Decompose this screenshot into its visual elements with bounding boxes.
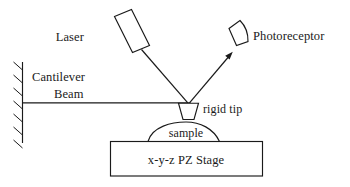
sample-label: sample	[169, 126, 204, 140]
photoreceptor-body	[229, 21, 248, 46]
cantilever-label-line1: Cantilever	[32, 70, 86, 84]
laser-label: Laser	[56, 30, 85, 44]
rigid-tip-outline	[179, 103, 199, 119]
reflected-laser-beam	[190, 52, 233, 103]
wall-hatch-mark	[14, 140, 23, 148]
wall-hatch-mark	[14, 88, 23, 96]
wall-hatch-mark	[14, 62, 23, 70]
cantilever-label-line2: Beam	[54, 87, 84, 101]
photoreceptor-outline	[229, 21, 248, 46]
incident-laser-beam	[142, 50, 188, 103]
wall-hatch-mark	[14, 127, 23, 135]
afm-schematic-diagram: Laser Photoreceptor Cantilever Beam rigi…	[0, 0, 350, 187]
wall-hatch-mark	[14, 114, 23, 122]
stage-label: x-y-z PZ Stage	[148, 153, 225, 167]
photoreceptor-label: Photoreceptor	[253, 29, 325, 43]
wall-hatch-mark	[14, 101, 23, 109]
afm-diagram-canvas: Laser Photoreceptor Cantilever Beam rigi…	[0, 0, 350, 187]
laser-body-outline	[115, 10, 150, 53]
laser-diode-body	[115, 10, 150, 53]
fixed-wall-support	[14, 62, 23, 148]
rigid-probe-tip	[179, 103, 199, 119]
reflected-beam-arrowhead	[225, 52, 233, 60]
reflected-beam-line	[190, 55, 231, 103]
wall-hatch-mark	[14, 75, 23, 83]
rigid-tip-label: rigid tip	[203, 102, 242, 116]
